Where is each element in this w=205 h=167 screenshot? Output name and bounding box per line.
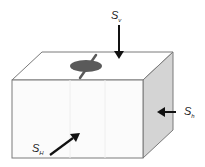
min-horizontal-stress-label: Sh	[184, 105, 195, 119]
vertical-stress-label: Sv	[111, 9, 122, 23]
stress-block-diagram: Sv Sh SH	[0, 0, 205, 167]
